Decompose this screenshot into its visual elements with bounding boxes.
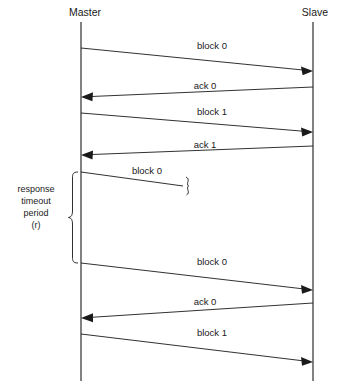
arrowhead-right-icon (301, 285, 313, 294)
message-line (81, 334, 307, 361)
arrowhead-right-icon (301, 128, 313, 137)
timeout-label-line-4: (r) (32, 220, 41, 230)
message-line (81, 48, 307, 70)
lost-message-squiggle-icon (186, 177, 189, 195)
arrowhead-left-icon (81, 92, 93, 101)
message-line (81, 113, 307, 132)
arrowhead-right-icon (301, 66, 313, 75)
message-ack-1: ack 1 (81, 139, 313, 159)
message-label-block-1-second: block 1 (197, 327, 227, 338)
message-ack-0-first: ack 0 (81, 80, 313, 101)
message-block-0-retry: block 0 (81, 256, 313, 294)
message-label-ack-0-first: ack 0 (194, 80, 217, 91)
sequence-diagram-root: Master Slave block 0 ack 0 block 1 ack 1 (0, 0, 340, 388)
arrowhead-left-icon (81, 150, 93, 159)
lifeline-headers-group: Master Slave (69, 6, 328, 18)
sequence-diagram-canvas: Master Slave block 0 ack 0 block 1 ack 1 (0, 0, 340, 388)
message-block-0-lost: block 0 (81, 165, 189, 195)
message-ack-0-second: ack 0 (81, 296, 313, 322)
timeout-label-line-1: response (17, 184, 54, 194)
arrowhead-left-icon (81, 313, 93, 322)
message-label-block-1-first: block 1 (197, 106, 227, 117)
timeout-label-line-2: timeout (21, 196, 51, 206)
response-timeout-annotation: response timeout period (r) (17, 172, 78, 263)
message-label-ack-1: ack 1 (194, 139, 217, 150)
message-label-block-0-retry: block 0 (197, 256, 227, 267)
timeout-label-line-3: period (23, 208, 48, 218)
arrowhead-right-icon (301, 357, 313, 366)
timeout-brace-icon (69, 172, 79, 263)
message-label-block-0-lost: block 0 (132, 165, 162, 176)
lifeline-label-master: Master (69, 6, 102, 18)
message-label-ack-0-second: ack 0 (194, 296, 217, 307)
message-label-block-0-first: block 0 (197, 40, 227, 51)
message-line (81, 263, 307, 289)
lifeline-label-slave: Slave (302, 6, 328, 18)
message-block-1-second: block 1 (81, 327, 313, 366)
message-block-1-first: block 1 (81, 106, 313, 136)
message-block-0-first: block 0 (81, 40, 313, 75)
